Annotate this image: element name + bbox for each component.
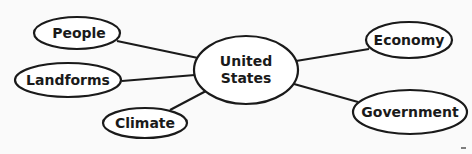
node-people: People [34,17,120,49]
node-climate: Climate [103,108,187,138]
node-label-economy: Economy [374,32,445,48]
connector-climate [170,91,206,110]
node-government: Government [353,90,467,134]
connector-economy [296,49,369,61]
node-label-government: Government [361,104,459,120]
node-united-states: United States [194,36,298,104]
node-economy: Economy [366,22,452,58]
center-label-line1: United [220,53,272,69]
node-label-people: People [52,25,106,41]
connector-people [117,41,198,58]
connector-government [294,84,358,102]
center-label-line2: States [221,70,272,86]
concept-web-diagram: People Landforms Climate United States E… [0,0,472,154]
node-landforms: Landforms [15,63,121,97]
node-label-landforms: Landforms [26,72,110,88]
node-label-climate: Climate [115,115,175,131]
connector-landforms [122,75,195,81]
